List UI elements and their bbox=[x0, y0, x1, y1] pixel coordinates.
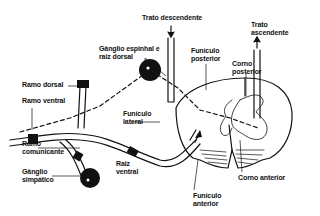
ganglio-simpatico bbox=[80, 168, 100, 188]
label-corno-anterior: Corno anterior bbox=[238, 174, 285, 182]
label-ganglio-simpatico: Gânglio simpático bbox=[22, 168, 54, 184]
label-funiculo-lateral: Funículo lateral bbox=[123, 110, 151, 126]
label-trato-descendente: Trato descendente bbox=[142, 14, 202, 22]
gray-matter bbox=[231, 95, 267, 140]
label-trato-ascendente: Trato ascendente bbox=[251, 21, 289, 37]
label-ganglio-espinhal: Gânglio espinhal e raiz dorsal bbox=[99, 45, 159, 61]
label-funiculo-anterior: Funículo anterior bbox=[193, 192, 221, 208]
label-ramo-ventral: Ramo ventral bbox=[22, 97, 65, 105]
spinal-cord-outline bbox=[176, 78, 292, 168]
label-ramo-dorsal: Ramo dorsal bbox=[22, 81, 63, 89]
trato-descendente-rod bbox=[168, 38, 174, 102]
label-corno-posterior: Corno posterior bbox=[232, 60, 261, 76]
label-ramo-comunicante: Ramo comunicante bbox=[22, 140, 64, 156]
label-funiculo-posterior: Funículo posterior bbox=[191, 47, 220, 63]
label-raiz-ventral: Raiz ventral bbox=[116, 160, 138, 176]
